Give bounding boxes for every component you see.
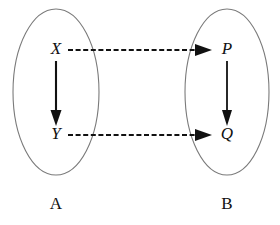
set-caption-b: B bbox=[221, 194, 232, 213]
set-caption-a: A bbox=[50, 194, 63, 213]
diagram-svg: X Y P Q A B bbox=[0, 0, 280, 225]
node-label-p: P bbox=[221, 39, 232, 58]
diagram-canvas: X Y P Q A B bbox=[0, 0, 280, 225]
arrow-y-to-q bbox=[68, 129, 212, 141]
arrow-p-to-q bbox=[222, 61, 232, 126]
arrow-x-to-p bbox=[68, 44, 212, 56]
node-label-x: X bbox=[50, 39, 62, 58]
node-label-y: Y bbox=[51, 124, 62, 143]
arrow-x-to-y bbox=[51, 61, 62, 126]
arrow-x-to-p-head bbox=[195, 44, 212, 56]
arrow-y-to-q-head bbox=[195, 129, 212, 141]
node-label-q: Q bbox=[221, 124, 233, 143]
